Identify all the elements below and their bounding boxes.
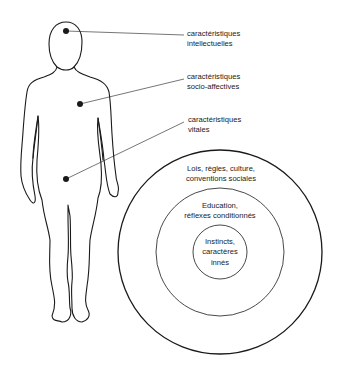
middle-circle-label-line1: Education, xyxy=(184,201,255,211)
diagram-canvas xyxy=(0,0,338,378)
outer-circle-label: Lois, règles, culture, conventions socia… xyxy=(186,164,256,185)
label-head: caractéristiques intellectuelles xyxy=(187,29,240,50)
label-head-line1: caractéristiques xyxy=(187,29,240,39)
middle-circle-label-line2: réflexes conditionnés xyxy=(184,211,255,221)
inner-circle-label-line2: caractères xyxy=(202,247,237,257)
label-abdomen-line2: vitales xyxy=(188,125,241,135)
label-chest-line1: caractéristiques xyxy=(187,72,240,82)
label-chest: caractéristiques socio-affectives xyxy=(187,72,240,93)
body-outline xyxy=(21,67,119,322)
inner-circle-label-line1: Instincts, xyxy=(202,237,237,247)
label-abdomen-line1: caractéristiques xyxy=(188,115,241,125)
leader-lines xyxy=(66,31,184,179)
label-head-line2: intellectuelles xyxy=(187,39,240,49)
inner-circle-label: Instincts, caractères innés xyxy=(202,237,237,268)
middle-circle-label: Education, réflexes conditionnés xyxy=(184,201,255,222)
outer-circle-label-line2: conventions sociales xyxy=(186,174,256,184)
leader-line-abdomen xyxy=(66,122,184,179)
leader-line-chest xyxy=(80,79,184,104)
inner-circle-label-line3: innés xyxy=(202,258,237,268)
label-abdomen: caractéristiques vitales xyxy=(188,115,241,136)
outer-circle-label-line1: Lois, règles, culture, xyxy=(186,164,256,174)
leader-line-head xyxy=(66,31,184,35)
right-arm-inner xyxy=(98,118,103,160)
human-figure xyxy=(21,22,119,322)
label-chest-line2: socio-affectives xyxy=(187,82,240,92)
